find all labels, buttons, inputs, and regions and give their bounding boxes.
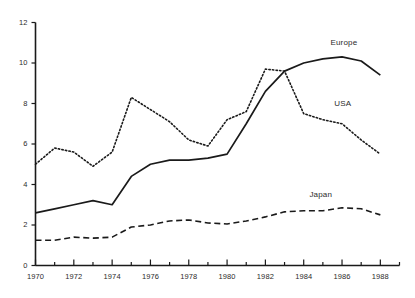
series-label-europe: Europe bbox=[331, 38, 358, 47]
chart-series-group bbox=[36, 57, 381, 240]
series-label-japan: Japan bbox=[309, 190, 332, 199]
line-chart: 0246810121970197219741976197819801982198… bbox=[0, 0, 415, 298]
x-axis-tick-label: 1986 bbox=[322, 272, 362, 281]
x-axis-tick-label: 1982 bbox=[245, 272, 285, 281]
y-axis-tick-label: 8 bbox=[2, 99, 28, 108]
x-axis-tick-label: 1974 bbox=[92, 272, 132, 281]
x-axis-tick-label: 1988 bbox=[360, 272, 400, 281]
x-axis-tick-label: 1972 bbox=[54, 272, 94, 281]
y-axis-tick-label: 2 bbox=[2, 220, 28, 229]
y-axis-tick-label: 12 bbox=[2, 18, 28, 27]
x-axis-tick-label: 1980 bbox=[207, 272, 247, 281]
y-axis-tick-label: 4 bbox=[2, 180, 28, 189]
y-axis-tick-label: 10 bbox=[2, 58, 28, 67]
series-line-usa bbox=[36, 69, 381, 166]
chart-axes bbox=[32, 23, 400, 266]
y-axis-tick-label: 0 bbox=[2, 261, 28, 270]
x-axis-tick-label: 1976 bbox=[130, 272, 170, 281]
x-axis-tick-label: 1984 bbox=[284, 272, 324, 281]
x-axis-tick-label: 1978 bbox=[169, 272, 209, 281]
x-axis-tick-label: 1970 bbox=[16, 272, 56, 281]
series-line-japan bbox=[36, 208, 381, 240]
y-axis-tick-label: 6 bbox=[2, 139, 28, 148]
series-label-usa: USA bbox=[334, 99, 351, 108]
